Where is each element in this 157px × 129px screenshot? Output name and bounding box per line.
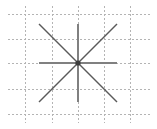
plot-figure (0, 0, 157, 129)
origin-marker (75, 60, 80, 65)
plot-canvas (0, 0, 157, 129)
